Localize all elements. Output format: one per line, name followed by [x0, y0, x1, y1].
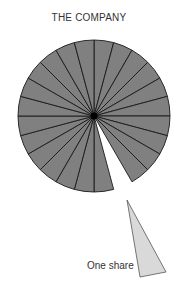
pie-center-dot [91, 113, 98, 120]
company-pie [18, 40, 170, 192]
one-share-label: One share [87, 260, 134, 271]
company-pie-diagram [0, 0, 178, 294]
